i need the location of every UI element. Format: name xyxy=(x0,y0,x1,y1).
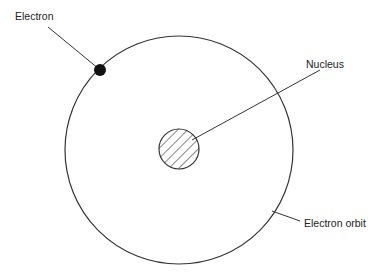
electron-label: Electron xyxy=(15,11,54,22)
atom-diagram xyxy=(0,0,379,277)
nucleus-leader-line xyxy=(192,70,320,140)
electron-leader-line xyxy=(48,27,99,69)
orbit-label: Electron orbit xyxy=(304,218,366,229)
nucleus xyxy=(159,129,199,169)
electron xyxy=(94,64,106,76)
nucleus-label: Nucleus xyxy=(306,59,344,70)
orbit-leader-line xyxy=(272,211,300,221)
